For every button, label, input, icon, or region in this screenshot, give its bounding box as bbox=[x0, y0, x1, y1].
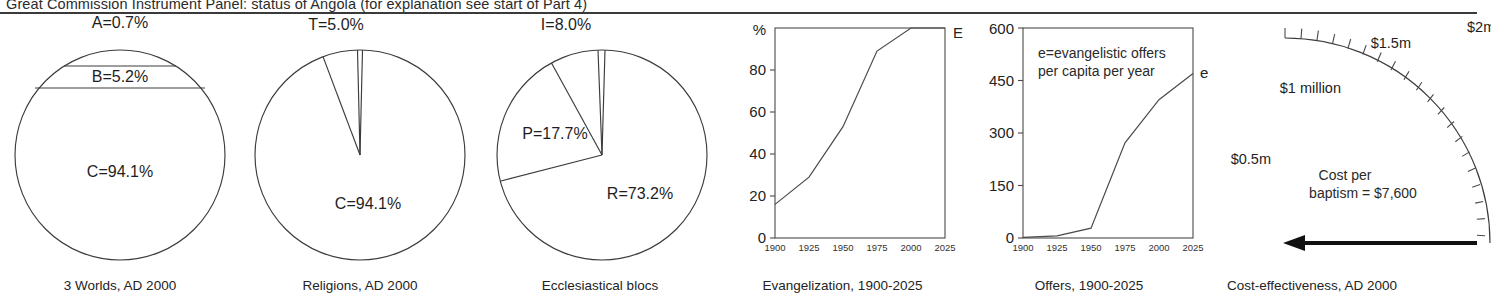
gauge-label-15m: $1.5m bbox=[1371, 35, 1411, 51]
pie-3-worlds-svg: A=0.7% B=5.2% C=94.1% bbox=[0, 14, 240, 274]
chart-cost-effectiveness: $0.5m $1 million $1.5m $2m Cost per bapt… bbox=[1213, 14, 1477, 301]
chart-3-worlds: A=0.7% B=5.2% C=94.1% 3 Worlds, AD 2000 bbox=[0, 14, 240, 301]
plot-frame bbox=[775, 28, 945, 238]
x-ticklabel-1925: 1925 bbox=[798, 242, 819, 253]
y-ticklabel-300: 300 bbox=[989, 124, 1014, 141]
chart-ecclesiastical-blocs: I=8.0% P=17.7% R=73.2% Ecclesiastical bl… bbox=[480, 14, 720, 301]
caption-evangelization: Evangelization, 1900-2025 bbox=[720, 278, 965, 293]
x-ticklabel-1900: 1900 bbox=[1012, 242, 1033, 253]
caption-offers: Offers, 1900-2025 bbox=[965, 278, 1213, 293]
caption-3-worlds: 3 Worlds, AD 2000 bbox=[0, 278, 240, 293]
y-axis-unit-label: % bbox=[753, 21, 766, 38]
x-ticklabel-1975: 1975 bbox=[1114, 242, 1135, 253]
x-ticklabel-1925: 1925 bbox=[1046, 242, 1067, 253]
y-ticklabel-60: 60 bbox=[749, 103, 766, 120]
pie-label-i: I=8.0% bbox=[541, 16, 591, 33]
line-offers-svg: 0 150 300 450 600 1900 1925 1950 1975 20… bbox=[965, 14, 1213, 274]
pie-slice-divider-3 bbox=[323, 57, 360, 155]
pie-label-r: R=73.2% bbox=[607, 185, 673, 202]
gauge-annotation-line-1: Cost per bbox=[1319, 167, 1372, 183]
y-ticklabel-150: 150 bbox=[989, 177, 1014, 194]
data-series-e bbox=[1023, 74, 1193, 238]
x-ticklabel-2000: 2000 bbox=[1148, 242, 1169, 253]
pie-slice-divider-1 bbox=[602, 50, 605, 155]
gauge-annotation-line-2: baptism = $7,600 bbox=[1309, 185, 1417, 201]
x-ticklabel-1950: 1950 bbox=[1080, 242, 1101, 253]
y-ticklabel-20: 20 bbox=[749, 187, 766, 204]
chart-religions: T=5.0% C=94.1% Religions, AD 2000 bbox=[240, 14, 480, 301]
gauge-cost-effectiveness-svg: $0.5m $1 million $1.5m $2m Cost per bapt… bbox=[1213, 14, 1477, 274]
pie-slice-divider-1 bbox=[360, 50, 363, 155]
x-ticklabel-1975: 1975 bbox=[866, 242, 887, 253]
x-ticklabel-2025: 2025 bbox=[1182, 242, 1203, 253]
pie-label-c: C=94.1% bbox=[87, 163, 153, 180]
pie-religions-svg: T=5.0% C=94.1% bbox=[240, 14, 480, 274]
x-ticklabel-1900: 1900 bbox=[764, 242, 785, 253]
pie-blocs-svg: I=8.0% P=17.7% R=73.2% bbox=[480, 14, 720, 274]
chart-offers: 0 150 300 450 600 1900 1925 1950 1975 20… bbox=[965, 14, 1213, 301]
gauge-label-1m: $1 million bbox=[1280, 80, 1341, 96]
pie-slice-divider-p bbox=[501, 155, 602, 181]
pie-label-t: T=5.0% bbox=[308, 16, 364, 33]
x-ticklabel-2025: 2025 bbox=[934, 242, 955, 253]
y-ticklabel-80: 80 bbox=[749, 61, 766, 78]
line-evangelization-svg: 0 20 40 60 80 % 1900 1925 1950 1975 2000… bbox=[720, 14, 965, 274]
y-ticklabel-600: 600 bbox=[989, 20, 1014, 37]
series-mark-e: e bbox=[1200, 64, 1208, 81]
pie-label-p: P=17.7% bbox=[522, 125, 587, 142]
series-mark-E: E bbox=[953, 24, 963, 41]
gauge-needle bbox=[1283, 235, 1477, 251]
y-ticklabel-450: 450 bbox=[989, 72, 1014, 89]
pie-label-c: C=94.1% bbox=[335, 195, 401, 212]
pie-label-b: B=5.2% bbox=[92, 68, 148, 85]
pie-label-a: A=0.7% bbox=[92, 14, 148, 31]
chart-evangelization: 0 20 40 60 80 % 1900 1925 1950 1975 2000… bbox=[720, 14, 965, 301]
caption-cost-effectiveness: Cost-effectiveness, AD 2000 bbox=[1213, 278, 1491, 293]
gauge-label-05m: $0.5m bbox=[1231, 151, 1271, 167]
caption-religions: Religions, AD 2000 bbox=[240, 278, 480, 293]
gauge-label-2m: $2m bbox=[1467, 19, 1491, 35]
annotation-line-2: per capita per year bbox=[1038, 63, 1155, 79]
pie-slice-divider-2 bbox=[598, 50, 602, 155]
annotation-line-1: e=evangelistic offers bbox=[1038, 45, 1166, 61]
x-ticklabel-1950: 1950 bbox=[832, 242, 853, 253]
y-ticklabel-40: 40 bbox=[749, 145, 766, 162]
caption-ecclesiastical-blocs: Ecclesiastical blocs bbox=[480, 278, 720, 293]
page-title: Great Commission Instrument Panel: statu… bbox=[6, 0, 587, 12]
gauge-ticks bbox=[1285, 28, 1485, 236]
gauge-scale-arc bbox=[1285, 38, 1490, 243]
x-ticklabel-2000: 2000 bbox=[900, 242, 921, 253]
data-series-E bbox=[775, 28, 945, 204]
pie-slice-divider-2 bbox=[358, 50, 361, 155]
